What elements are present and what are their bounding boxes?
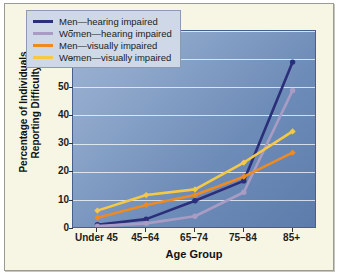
- x-axis-tick-mark: [96, 228, 97, 232]
- y-axis-tick-mark: [69, 115, 73, 116]
- legend-color-swatch: [33, 56, 53, 59]
- data-point-marker: [94, 215, 100, 221]
- legend-item-label: Women—hearing impaired: [59, 28, 172, 39]
- legend-item-label: Women—visually impaired: [59, 52, 171, 63]
- y-axis-tick-mark: [69, 87, 73, 88]
- legend-item-label: Men—hearing impaired: [59, 16, 158, 27]
- legend-item-label: Men—visually impaired: [59, 40, 157, 51]
- legend-color-swatch: [33, 44, 53, 47]
- data-point-marker: [290, 59, 295, 64]
- chart-card: 010203040506070 Percentage of Individual…: [4, 3, 334, 271]
- data-point-marker: [192, 214, 197, 219]
- legend-item: Men—visually impaired: [33, 39, 172, 51]
- x-axis-tick-mark: [145, 228, 146, 232]
- legend-item: Men—hearing impaired: [33, 15, 172, 27]
- data-point-marker: [192, 198, 197, 203]
- x-axis-tick-mark: [292, 228, 293, 232]
- legend-item: Women—visually impaired: [33, 51, 172, 63]
- y-axis-tick-mark: [69, 143, 73, 144]
- series-line: [97, 90, 292, 226]
- y-axis-tick-label: 50: [45, 82, 69, 92]
- y-axis-tick-mark: [69, 200, 73, 201]
- y-axis-tick-mark: [69, 58, 73, 59]
- y-axis-tick-mark: [69, 228, 73, 229]
- data-point-marker: [143, 202, 149, 208]
- chart-legend: Men—hearing impairedWomen—hearing impair…: [26, 10, 181, 68]
- y-axis-tick-mark: [69, 30, 73, 31]
- legend-color-swatch: [33, 32, 53, 35]
- data-point-marker: [94, 208, 100, 214]
- data-point-marker: [143, 192, 149, 198]
- y-axis-tick-label: 40: [45, 110, 69, 120]
- series-line: [97, 153, 292, 218]
- x-axis-title: Age Group: [72, 248, 316, 260]
- x-axis-tick-label: 85+: [252, 232, 332, 243]
- data-point-marker: [241, 190, 246, 195]
- y-axis-tick-mark: [69, 171, 73, 172]
- legend-item: Women—hearing impaired: [33, 27, 172, 39]
- x-axis-tick-mark: [243, 228, 244, 232]
- data-point-marker: [290, 88, 295, 93]
- data-point-marker: [144, 221, 149, 226]
- y-axis-tick-label: 30: [45, 138, 69, 148]
- x-axis-tick-mark: [194, 228, 195, 232]
- y-axis-tick-label: 10: [45, 195, 69, 205]
- y-axis-tick-label: 20: [45, 166, 69, 176]
- legend-color-swatch: [33, 20, 53, 23]
- chart-figure: 010203040506070 Percentage of Individual…: [0, 0, 339, 276]
